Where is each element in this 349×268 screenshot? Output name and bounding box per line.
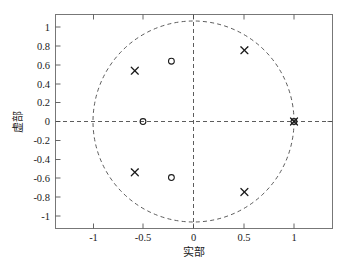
- x-tick-label: 1: [291, 232, 296, 243]
- pole-zero-plot-figure: -1 -0.5 0 0.5 1 1 0.8 0.6 0.4 0.2 0 -0.2…: [0, 0, 349, 268]
- x-axis-title: 实部: [183, 245, 205, 258]
- y-tick-label: 0.6: [37, 60, 50, 71]
- y-tick-label: -0.4: [33, 154, 50, 165]
- plot-canvas: -1 -0.5 0 0.5 1 1 0.8 0.6 0.4 0.2 0 -0.2…: [0, 0, 349, 268]
- y-tick-label: -0.8: [33, 192, 50, 203]
- y-axis-title: 虚部: [11, 111, 24, 133]
- y-tick-label: 0.2: [37, 97, 50, 108]
- y-tick-label: 0.4: [37, 79, 51, 90]
- x-tick-label: -0.5: [135, 232, 152, 243]
- x-tick-label: 0.5: [237, 232, 250, 243]
- figure-background: [0, 0, 349, 268]
- x-tick-label: -1: [89, 232, 98, 243]
- y-tick-label: -0.6: [33, 173, 50, 184]
- y-tick-label: 0.8: [37, 41, 50, 52]
- y-tick-label: 0: [45, 116, 50, 127]
- y-tick-label: -0.2: [33, 135, 50, 146]
- y-tick-label: 1: [45, 22, 50, 33]
- y-tick-label: -1: [41, 211, 50, 222]
- x-tick-label: 0: [191, 232, 196, 243]
